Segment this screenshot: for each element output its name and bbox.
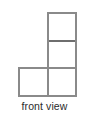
bottom-right-square <box>48 68 76 96</box>
figure-svg <box>0 0 89 100</box>
screenshot-root: front view <box>0 0 89 123</box>
figure-caption: front view <box>0 100 89 113</box>
bottom-left-square <box>19 68 48 96</box>
front-view-orthographic-figure <box>0 0 89 100</box>
top-right-square <box>48 13 76 41</box>
middle-right-square <box>48 41 76 68</box>
